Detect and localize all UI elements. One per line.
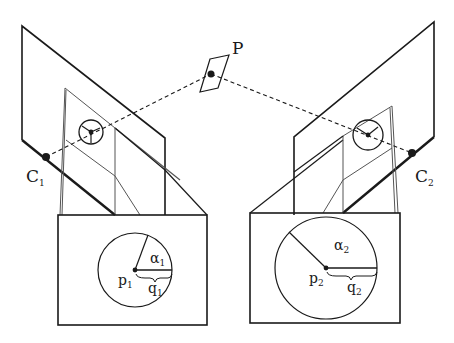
label-C1: C <box>26 166 39 186</box>
label-C2: C <box>415 166 428 186</box>
svg-text:C1: C1 <box>26 166 45 188</box>
right-funnel-outline <box>343 106 398 213</box>
left-camera <box>22 26 207 325</box>
right-image-point-dot <box>324 266 329 271</box>
scene-patch <box>200 55 229 92</box>
right-camera <box>250 22 434 323</box>
svg-text:α1: α1 <box>150 250 165 268</box>
label-q1: q <box>148 280 157 296</box>
right-plane-outer-diagonal <box>250 140 343 213</box>
right-image-plane <box>294 22 434 215</box>
left-funnel-outline <box>60 88 115 215</box>
left-angle-ray <box>135 235 148 270</box>
svg-text:p2: p2 <box>309 270 324 288</box>
label-q2: q <box>347 279 356 295</box>
left-image-box <box>58 215 207 325</box>
right-projection-ray <box>211 74 412 153</box>
left-plane-outer-diagonal <box>165 170 207 215</box>
label-p2: p <box>309 270 318 286</box>
left-funnel-inner <box>66 140 140 215</box>
left-image-point-dot <box>133 268 138 273</box>
svg-text:p1: p1 <box>118 272 133 290</box>
label-p1: p <box>118 272 127 288</box>
svg-text:α2: α2 <box>334 237 349 255</box>
svg-text:q2: q2 <box>347 279 362 297</box>
stereo-geometry-diagram: P C1 C2 p1 α1 q1 p2 α2 q2 <box>0 0 454 343</box>
label-P: P <box>232 38 243 58</box>
left-projection-ray <box>46 74 211 157</box>
right-angle-ray <box>289 232 326 268</box>
svg-text:q1: q1 <box>148 280 163 298</box>
svg-text:C2: C2 <box>415 166 434 188</box>
